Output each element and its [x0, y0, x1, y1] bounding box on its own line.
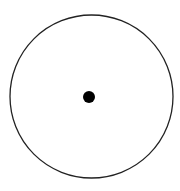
- diagram-svg: [0, 0, 180, 191]
- center-dot: [83, 91, 95, 103]
- diagram-canvas: [0, 0, 180, 191]
